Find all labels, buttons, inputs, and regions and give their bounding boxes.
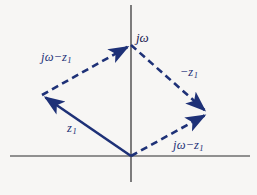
label-minus-upper: −: [54, 50, 62, 64]
label-z-sub-lower: 1: [199, 143, 203, 153]
label-jw-minus-z1-upper: jω−z1: [41, 51, 72, 65]
label-z-sub-main: 1: [72, 126, 76, 136]
label-minus-sign: −: [180, 65, 188, 79]
imaginary-axis-label: jω: [136, 31, 149, 44]
label-jw-upper: jω: [41, 50, 54, 64]
diagram-canvas: [0, 0, 257, 195]
label-minus-z1: −z1: [180, 66, 198, 80]
label-jw-minus-z1-lower: jω−z1: [173, 139, 204, 153]
complex-plane-vector-diagram: jω jω−z1 −z1 z1 jω−z1: [0, 0, 257, 195]
label-z1: z1: [67, 122, 77, 136]
label-jw-lower: jω: [173, 138, 186, 152]
label-minus-lower: −: [186, 138, 194, 152]
label-z-sub-right: 1: [194, 70, 198, 80]
label-z-right: z: [188, 65, 193, 79]
label-z-sub-upper: 1: [67, 55, 71, 65]
vector-z1: [46, 98, 132, 157]
